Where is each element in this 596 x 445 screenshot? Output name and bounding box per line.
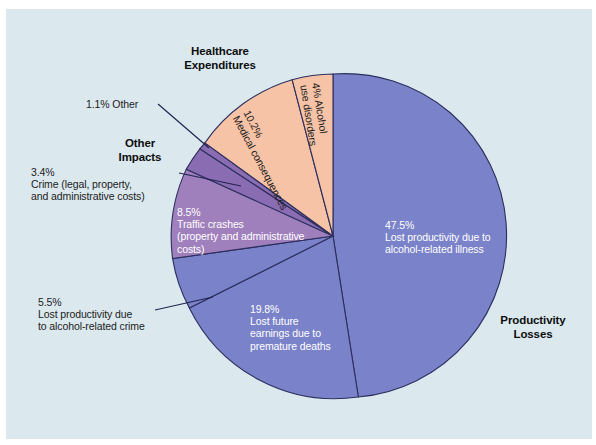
slice-label-traffic-crashes: 8.5% Traffic crashes (property and admin…: [177, 206, 304, 255]
group-title-healthcare-expenditures: Healthcare Expenditures: [160, 45, 280, 73]
slice-label-lost-future-earnings: 19.8% Lost future earnings due to premat…: [250, 303, 331, 352]
slice-label-lost-productivity-crime: 5.5% Lost productivity due to alcohol-re…: [38, 296, 145, 333]
slice-label-lost-productivity-illness: 47.5% Lost productivity due to alcohol-r…: [385, 219, 491, 256]
pie-chart-figure: Healthcare Expenditures Other Impacts Pr…: [0, 0, 596, 445]
slice-label-other: 1.1% Other: [86, 98, 138, 110]
group-title-other-impacts: Other Impacts: [84, 137, 196, 165]
group-title-productivity-losses: Productivity Losses: [478, 314, 588, 342]
slice-label-crime: 3.4% Crime (legal, property, and adminis…: [31, 166, 145, 203]
